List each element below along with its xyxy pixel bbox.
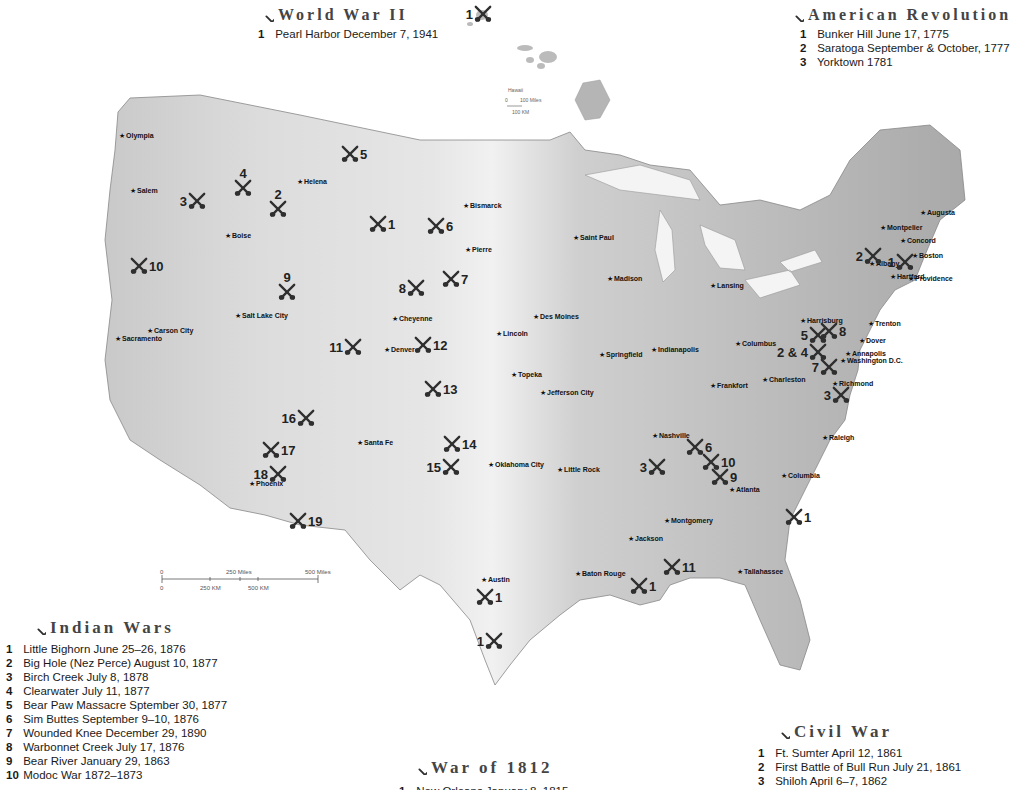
city-label: Concord <box>907 237 936 244</box>
crossed-sabers-icon <box>712 470 728 485</box>
city-label: Nashville <box>659 432 690 439</box>
hawaii-scale: Hawaii 0 100 Miles 100 KM <box>505 87 542 115</box>
legend-item-number: 10 <box>6 768 20 782</box>
legend-list: 1 New Orleans January 8, 1815 <box>399 784 568 790</box>
capital-star-icon: ★ <box>357 439 363 446</box>
legend-item-text: Bunker Hill June 17, 1775 <box>814 28 949 40</box>
city-label: Des Moines <box>540 313 579 320</box>
capital-star-icon: ★ <box>599 351 605 358</box>
city: ★Columbia <box>781 472 820 479</box>
city-label: Sacramento <box>122 335 162 342</box>
city-label: Santa Fe <box>364 439 393 446</box>
city-label: Augusta <box>927 209 955 217</box>
marker-number: 15 <box>427 460 441 475</box>
city: ★Columbus <box>735 340 776 347</box>
marker-number: 8 <box>399 281 406 296</box>
city: ★Charleston <box>762 376 806 383</box>
capital-star-icon: ★ <box>607 275 613 282</box>
city-label: Montpelier <box>887 224 923 232</box>
legend-item: 1 Little Bighorn June 25–26, 1876 <box>6 642 227 656</box>
city-label: Boise <box>232 232 251 239</box>
capital-star-icon: ★ <box>822 434 828 441</box>
city: ★Atlanta <box>729 486 760 493</box>
city: ★Tallahassee <box>737 568 783 575</box>
city-label: Madison <box>614 275 642 282</box>
city: ★Montgomery <box>664 517 713 525</box>
legend-item-text: Saratoga September & October, 1777 <box>814 42 1010 54</box>
legend-item: 3 Shiloh April 6–7, 1862 <box>758 774 961 788</box>
capital-star-icon: ★ <box>762 376 768 383</box>
scale-250-miles: 250 Miles <box>226 569 252 575</box>
crossed-sabers-icon <box>342 147 358 162</box>
city: ★Topeka <box>511 371 542 379</box>
city-label: Raleigh <box>829 434 854 442</box>
crossed-sabers-icon <box>786 8 804 22</box>
battle-marker: 7 <box>812 360 837 375</box>
city: ★Indianapolis <box>651 346 699 354</box>
capital-star-icon: ★ <box>845 350 851 357</box>
crossed-sabers-icon <box>664 560 680 575</box>
capital-star-icon: ★ <box>540 389 546 396</box>
crossed-sabers-icon <box>425 382 441 397</box>
city: ★Helena <box>297 178 327 185</box>
city: ★Denver <box>384 346 415 353</box>
city-label: Lincoln <box>503 330 528 337</box>
capital-star-icon: ★ <box>147 327 153 334</box>
battle-marker: 1 <box>477 590 502 605</box>
marker-number: 18 <box>254 467 268 482</box>
capital-star-icon: ★ <box>488 461 494 468</box>
legend-item: 5 Bear Paw Massacre Sptember 30, 1877 <box>6 698 227 712</box>
city-label: Salt Lake City <box>242 312 288 320</box>
legend-item-number: 6 <box>6 712 20 726</box>
capital-star-icon: ★ <box>800 317 806 324</box>
marker-number: 2 <box>274 187 281 202</box>
capital-star-icon: ★ <box>735 340 741 347</box>
city: ★Dover <box>859 337 886 344</box>
crossed-sabers-icon <box>443 272 459 287</box>
legend-item-text: Birch Creek July 8, 1878 <box>20 671 148 683</box>
legend-item: 1 New Orleans January 8, 1815 <box>399 784 568 790</box>
legend-item: 4 Clearwater July 11, 1877 <box>6 684 227 698</box>
capital-star-icon: ★ <box>868 320 874 327</box>
marker-number: 2 & 4 <box>777 345 809 360</box>
crossed-sabers-icon <box>772 725 790 739</box>
city: ★Jefferson City <box>540 389 594 397</box>
city-label: Topeka <box>518 371 542 379</box>
city: ★Saint Paul <box>573 234 614 241</box>
scale-bar: 0 250 Miles 500 Miles 0 250 KM 500 KM <box>160 569 331 591</box>
scale-250-km: 250 KM <box>200 585 221 591</box>
city-label: Lansing <box>717 282 744 290</box>
legend-item-text: Warbonnet Creek July 17, 1876 <box>20 741 185 753</box>
city: ★Raleigh <box>822 434 854 442</box>
legend-item-number: 1 <box>800 27 814 41</box>
crossed-sabers-icon <box>409 761 427 775</box>
legend-item: 10 Modoc War 1872–1873 <box>6 768 227 782</box>
crossed-sabers-icon <box>131 259 147 274</box>
city: ★Washington D.C. <box>840 357 903 365</box>
crossed-sabers-icon <box>443 460 459 475</box>
legend-indian-wars: Indian Wars 1 Little Bighorn June 25–26,… <box>6 618 227 782</box>
legend-item-text: Bear Paw Massacre Sptember 30, 1877 <box>20 699 227 711</box>
city: ★Richmond <box>832 380 873 387</box>
hawaii-scale-km: 100 KM <box>512 109 529 115</box>
marker-number: 9 <box>283 270 290 285</box>
battle-marker: 6 <box>687 440 712 455</box>
city: ★Santa Fe <box>357 439 393 446</box>
legend-item-text: Shiloh April 6–7, 1862 <box>772 775 887 787</box>
capital-star-icon: ★ <box>115 335 121 342</box>
marker-number: 7 <box>812 360 819 375</box>
crossed-sabers-icon <box>821 360 837 375</box>
crossed-sabers-icon <box>270 202 286 217</box>
city: ★Providence <box>908 275 953 282</box>
marker-number: 1 <box>495 590 502 605</box>
capital-star-icon: ★ <box>651 346 657 353</box>
capital-star-icon: ★ <box>533 313 539 320</box>
battle-marker: 10 <box>131 259 164 274</box>
battle-marker: 5 <box>342 147 367 162</box>
legend-item: 1 Ft. Sumter April 12, 1861 <box>758 746 961 760</box>
city: ★Lincoln <box>496 330 528 337</box>
marker-number: 3 <box>180 194 187 209</box>
city-label: Cheyenne <box>399 315 433 323</box>
city-label: Salem <box>137 187 158 194</box>
legend-item-number: 9 <box>6 754 20 768</box>
